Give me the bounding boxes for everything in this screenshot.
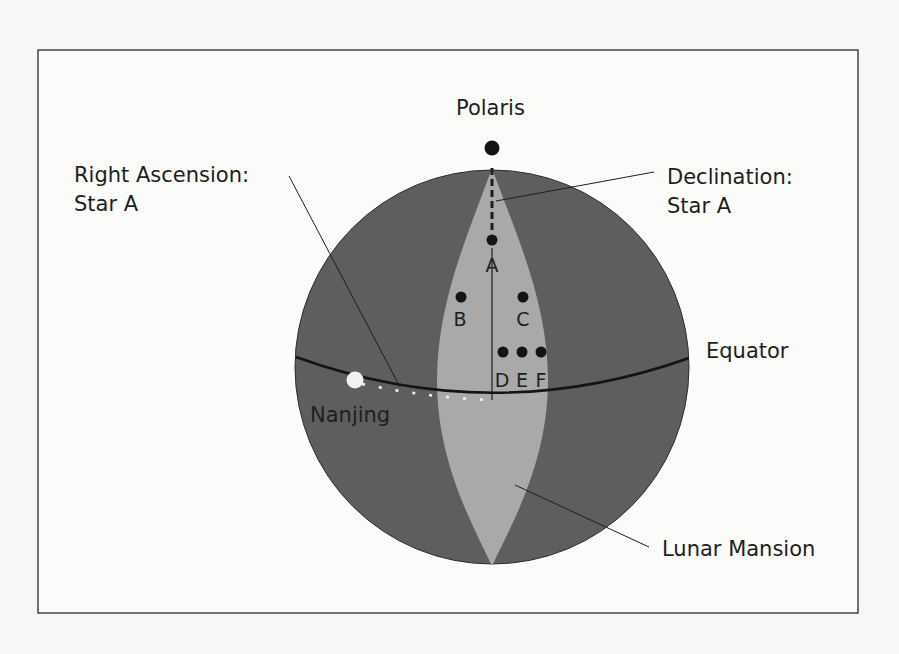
right-ascension-label-line2: Star A — [74, 192, 139, 216]
nanjing-label: Nanjing — [310, 403, 390, 427]
declination-label-line1: Declination: — [667, 165, 793, 189]
nanjing-dot — [347, 372, 364, 389]
equator-label: Equator — [706, 339, 789, 363]
star-c — [518, 292, 529, 303]
star-f — [536, 347, 547, 358]
star-b-label: B — [453, 308, 466, 330]
right-ascension-label-line1: Right Ascension: — [74, 163, 249, 187]
star-a — [487, 235, 498, 246]
star-e-label: E — [516, 369, 528, 391]
star-f-label: F — [536, 369, 547, 391]
celestial-sphere-diagram: A B C D E F Polaris Right Ascension: Sta… — [0, 0, 899, 654]
polaris-label: Polaris — [456, 96, 525, 120]
lunar-mansion-label: Lunar Mansion — [662, 537, 815, 561]
star-a-label: A — [486, 254, 499, 276]
star-e — [517, 347, 528, 358]
star-b — [456, 292, 467, 303]
polaris-star — [485, 141, 500, 156]
star-c-label: C — [516, 308, 529, 330]
star-d-label: D — [495, 369, 510, 391]
star-d — [498, 347, 509, 358]
declination-label-line2: Star A — [667, 194, 732, 218]
